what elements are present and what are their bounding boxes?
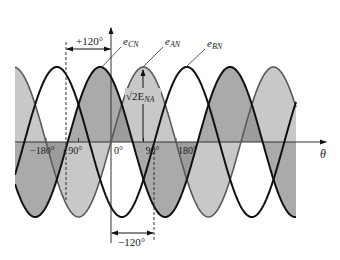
plus-120-label: +120° bbox=[76, 35, 103, 47]
tick-label: 0° bbox=[114, 145, 123, 156]
waveform-svg: −180°−90°0°90°180° +120° −120° √2ENA eCN… bbox=[0, 0, 340, 260]
e-an-label: eAN bbox=[165, 35, 181, 49]
minus-120-label: −120° bbox=[118, 236, 145, 248]
theta-axis-label: θ bbox=[320, 147, 326, 161]
e-bn-label: eBN bbox=[207, 37, 223, 51]
three-phase-waveform-diagram: −180°−90°0°90°180° +120° −120° √2ENA eCN… bbox=[0, 0, 340, 260]
e-an-leader-line bbox=[143, 47, 163, 67]
e-bn-leader-line bbox=[186, 49, 205, 67]
e-cn-label: eCN bbox=[123, 35, 139, 49]
tick-label: −180° bbox=[30, 145, 55, 156]
